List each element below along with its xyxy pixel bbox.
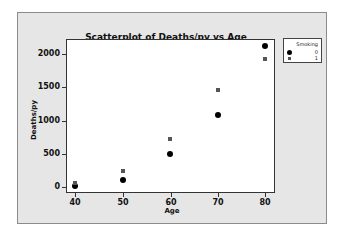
x-tick-label: 40 — [65, 198, 85, 207]
x-tick-label: 80 — [255, 198, 275, 207]
y-tick — [62, 121, 66, 122]
legend-item-1: 1 — [284, 55, 321, 62]
y-tick-label: 2000 — [38, 49, 60, 58]
y-axis-title: Deaths/py — [30, 90, 38, 150]
square-marker-icon — [288, 57, 291, 60]
data-point-circle — [262, 43, 268, 49]
x-tick — [123, 193, 124, 197]
y-tick-label: 0 — [54, 182, 60, 191]
data-point-square — [168, 137, 172, 141]
data-point-circle — [120, 177, 126, 183]
data-point-square — [216, 88, 220, 92]
y-tick-label: 500 — [43, 149, 60, 158]
y-tick — [62, 187, 66, 188]
legend: Smoking 0 1 — [283, 38, 322, 63]
plot-area — [66, 39, 275, 193]
y-tick-label: 1500 — [38, 82, 60, 91]
y-tick — [62, 54, 66, 55]
x-tick — [171, 193, 172, 197]
data-point-square — [121, 169, 125, 173]
y-tick-label: 1000 — [38, 116, 60, 125]
y-tick — [62, 87, 66, 88]
data-point-circle — [215, 112, 221, 118]
y-tick — [62, 154, 66, 155]
x-tick — [218, 193, 219, 197]
x-tick — [75, 193, 76, 197]
x-axis-title: Age — [150, 207, 194, 215]
data-point-square — [263, 57, 267, 61]
x-tick-label: 70 — [208, 198, 228, 207]
x-tick-label: 50 — [113, 198, 133, 207]
x-tick-label: 60 — [161, 198, 181, 207]
x-tick — [265, 193, 266, 197]
legend-label: 1 — [315, 55, 318, 61]
legend-title: Smoking — [296, 41, 318, 47]
data-point-square — [73, 181, 77, 185]
